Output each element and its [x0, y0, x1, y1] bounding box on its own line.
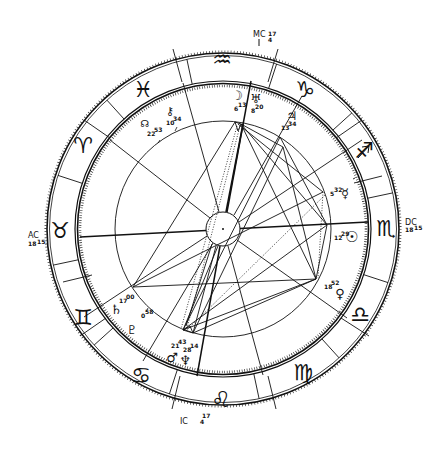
saturn-minute: 00: [126, 293, 134, 300]
sign-divider: [254, 374, 259, 399]
saturn-icon: ♄: [110, 302, 122, 317]
sign-aquarius-icon: ♒: [212, 47, 232, 72]
node-minute: 53: [154, 126, 162, 133]
center-dot: [222, 228, 224, 230]
sign-gemini-icon: ♊: [73, 305, 93, 330]
node-icon: ☊: [141, 118, 150, 129]
mars-minute: 43: [178, 338, 186, 345]
sign-divider: [187, 59, 192, 84]
jupiter-minute: 34: [288, 120, 296, 127]
venus-minute: 52: [331, 279, 339, 286]
sign-capricorn-icon: ♑: [295, 77, 315, 102]
mc-minute: 17: [268, 30, 276, 37]
pluto-icon: ♇: [127, 323, 138, 337]
sign-divider: [107, 100, 124, 119]
mercury-minute: 32: [334, 186, 342, 193]
asc-axis: [80, 231, 206, 238]
sign-libra-icon: ♎: [350, 302, 370, 327]
ic-degree: 4: [200, 418, 204, 425]
ic-minute: 17: [202, 412, 210, 419]
sign-divider: [364, 275, 388, 283]
sign-sagittarius-icon: ♐: [354, 138, 374, 163]
sign-pisces-icon: ♓: [133, 77, 153, 102]
sign-divider: [94, 328, 113, 345]
sign-taurus-icon: ♉: [50, 218, 70, 243]
mc-label: MC: [253, 30, 266, 39]
pluto-minute: 58: [145, 308, 153, 315]
dsc-degree: 18: [405, 226, 413, 233]
sign-divider: [322, 339, 339, 358]
dsc-minute: 15: [414, 224, 422, 231]
sign-divider: [333, 113, 352, 130]
chiron-minute: 34: [173, 115, 181, 122]
house-ticks: [146, 127, 177, 312]
uranus-minute: 20: [255, 103, 263, 110]
sign-cancer-icon: ♋: [131, 363, 151, 388]
neptune-icon: ♆: [179, 353, 191, 368]
sign-scorpio-icon: ♏: [376, 216, 396, 241]
sign-divider: [53, 260, 78, 265]
mars-icon: ♂: [166, 350, 178, 365]
mc-degree: 4: [268, 36, 272, 43]
neptune-minute: 14: [190, 342, 198, 349]
sun-minute: 29: [341, 230, 349, 237]
venus-icon: ♀: [335, 286, 345, 301]
moon-minute: 13: [238, 101, 246, 108]
horoscope-wheel: ♒ ♑ ♐ ♏ ♎ ♍ ♌ ♋ ♊ ♉ ♈ ♓ ☽ 6 13 ♅ 8 20 ♃ …: [0, 0, 447, 450]
sign-divider: [368, 193, 393, 198]
ic-label: IC: [180, 417, 188, 426]
sign-divider: [58, 175, 82, 183]
sign-aries-icon: ♈: [73, 133, 93, 158]
sign-leo-icon: ♌: [211, 387, 231, 412]
sign-virgo-icon: ♍: [293, 360, 313, 385]
asc-minute: 15: [37, 238, 45, 245]
asc-degree: 18: [28, 240, 36, 247]
